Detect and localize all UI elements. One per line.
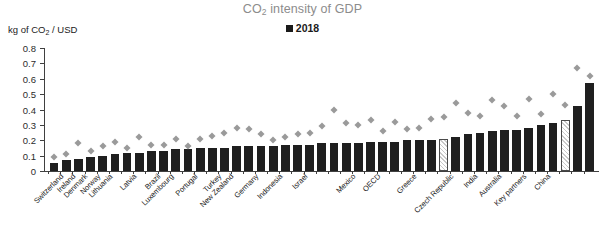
bar <box>86 157 95 171</box>
data-point-marker <box>294 131 301 138</box>
bar <box>549 123 558 171</box>
bar <box>281 145 290 171</box>
data-point-marker <box>87 147 94 154</box>
bar <box>74 159 83 171</box>
bar <box>403 140 412 171</box>
bar <box>50 163 59 171</box>
data-point-marker <box>489 97 496 104</box>
y-axis-tick <box>40 140 45 141</box>
bar <box>257 146 266 171</box>
plot-area: 00.10.20.30.40.50.60.70.8 <box>44 48 599 171</box>
data-point-marker <box>464 109 471 116</box>
bar <box>512 130 521 172</box>
bar <box>464 134 473 171</box>
x-axis-label: Israel <box>290 172 309 191</box>
x-axis-label: India <box>462 172 480 190</box>
data-point-marker <box>172 135 179 142</box>
data-point-marker <box>513 112 520 119</box>
bar <box>232 146 241 171</box>
bar <box>585 83 594 171</box>
y-axis-tick-label: 0.7 <box>0 59 36 69</box>
bar <box>208 148 217 171</box>
y-axis-tick-label: 0 <box>0 167 36 177</box>
y-axis-tick <box>40 79 45 80</box>
bar <box>171 149 180 171</box>
data-point-marker <box>75 140 82 147</box>
data-point-marker <box>586 72 593 79</box>
data-point-marker <box>477 112 484 119</box>
data-point-marker <box>330 106 337 113</box>
data-point-marker <box>562 101 569 108</box>
x-axis-label: Greece <box>395 172 419 196</box>
bar <box>62 160 71 171</box>
data-point-marker <box>537 111 544 118</box>
bar <box>244 146 253 171</box>
chart-title-prefix: CO <box>243 2 262 16</box>
bar <box>269 146 278 171</box>
data-point-marker <box>282 134 289 141</box>
bar <box>390 142 399 171</box>
bar <box>488 131 497 171</box>
data-point-marker <box>318 123 325 130</box>
data-point-marker <box>136 134 143 141</box>
x-axis-label: Mexico <box>335 172 358 195</box>
x-axis-labels: SwitzerlandIrelandDenmarkNorwayLithuania… <box>44 172 605 230</box>
bar <box>330 143 339 171</box>
bar <box>147 151 156 171</box>
bar <box>159 151 168 171</box>
data-point-marker <box>379 127 386 134</box>
bar <box>293 145 302 171</box>
bar <box>427 140 436 171</box>
x-axis-label: OECD <box>360 172 382 194</box>
x-axis-label: Czech Republic <box>412 172 455 215</box>
legend-label-2018: 2018 <box>296 22 319 34</box>
x-axis-label: Portugal <box>174 172 200 198</box>
data-point-marker <box>257 131 264 138</box>
data-point-marker <box>209 132 216 139</box>
data-point-marker <box>111 138 118 145</box>
data-point-marker <box>160 141 167 148</box>
data-point-marker <box>525 95 532 102</box>
data-point-marker <box>270 137 277 144</box>
y-axis-unit-prefix: kg of CO <box>8 24 46 35</box>
bar <box>476 133 485 171</box>
bar <box>123 153 132 171</box>
data-point-marker <box>574 64 581 71</box>
data-point-marker <box>501 103 508 110</box>
bar <box>354 143 363 171</box>
y-axis-tick-label: 0.8 <box>0 44 36 54</box>
bar <box>305 145 314 171</box>
bar <box>98 156 107 171</box>
bar <box>561 120 570 171</box>
x-axis-label: China <box>532 172 552 192</box>
bar <box>111 154 120 171</box>
y-axis-tick-label: 0.2 <box>0 136 36 146</box>
data-point-marker <box>221 129 228 136</box>
data-point-marker <box>148 141 155 148</box>
y-axis-unit-suffix: / USD <box>49 24 77 35</box>
data-point-marker <box>391 118 398 125</box>
legend-swatch-2018 <box>286 25 293 32</box>
bar <box>537 125 546 171</box>
data-point-marker <box>51 154 58 161</box>
data-point-marker <box>440 114 447 121</box>
y-axis-tick-label: 0.3 <box>0 121 36 131</box>
y-axis-unit-subscript: 2 <box>46 29 50 36</box>
bar <box>366 142 375 171</box>
data-point-marker <box>99 143 106 150</box>
data-point-marker <box>343 120 350 127</box>
bar <box>196 148 205 171</box>
y-axis-tick <box>40 63 45 64</box>
bar <box>317 143 326 171</box>
data-point-marker <box>63 151 70 158</box>
data-point-marker <box>403 126 410 133</box>
y-axis-tick <box>40 110 45 111</box>
bar <box>573 106 582 171</box>
y-axis-tick <box>40 94 45 95</box>
y-axis-tick-label: 0.5 <box>0 90 36 100</box>
data-point-marker <box>416 124 423 131</box>
bar <box>451 137 460 171</box>
data-point-marker <box>245 126 252 133</box>
chart-legend: 2018 <box>0 22 605 34</box>
co2-intensity-chart: CO2 intensity of GDP 2018 kg of CO2 / US… <box>0 0 605 230</box>
